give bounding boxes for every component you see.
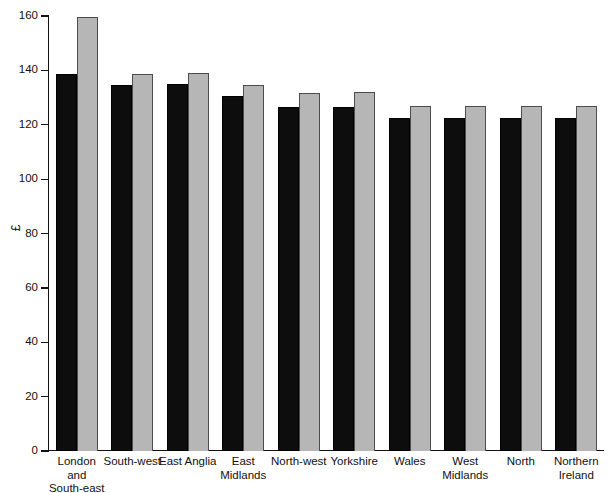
y-tick-label-wrap: 140 [0, 64, 38, 76]
bar-series-2 [410, 106, 431, 451]
y-tick-label-wrap: 20 [0, 391, 38, 403]
y-tick-label: 20 [4, 391, 38, 403]
y-tick-mark [41, 450, 49, 451]
bar-series-2 [243, 85, 264, 451]
y-tick-label: 120 [4, 119, 38, 131]
bar-chart: £ 020406080100120140160 London and South… [0, 0, 611, 493]
y-tick-label-wrap: 80 [0, 228, 38, 240]
bar-series-1 [167, 84, 188, 451]
y-tick-label-wrap: 0 [0, 445, 38, 457]
bar-series-2 [465, 106, 486, 451]
y-tick-label: 40 [4, 336, 38, 348]
y-tick-mark [41, 342, 49, 343]
bar-series-2 [576, 106, 597, 451]
bar-group [167, 16, 209, 451]
y-tick-mark [41, 124, 49, 125]
y-tick-label-wrap: 100 [0, 173, 38, 185]
bar-series-1 [389, 118, 410, 451]
bar-series-2 [188, 73, 209, 451]
y-tick-mark [41, 233, 49, 234]
bar-series-1 [111, 85, 132, 451]
y-tick-mark [41, 287, 49, 288]
bar-group [56, 16, 98, 451]
y-tick-label-wrap: 40 [0, 336, 38, 348]
y-tick-label-wrap: 120 [0, 119, 38, 131]
bar-series-1 [444, 118, 465, 451]
bar-series-2 [77, 17, 98, 451]
bar-series-1 [56, 74, 77, 451]
y-tick-label-wrap: 160 [0, 10, 38, 22]
x-axis-label: Northern Ireland [543, 455, 611, 482]
y-tick-label-wrap: 60 [0, 282, 38, 294]
bar-series-1 [278, 107, 299, 451]
bar-group [111, 16, 153, 451]
bar-series-1 [555, 118, 576, 451]
y-tick-label: 0 [4, 445, 38, 457]
y-tick-label: 100 [4, 173, 38, 185]
bar-series-1 [333, 107, 354, 451]
y-tick-label: 140 [4, 64, 38, 76]
bar-group [278, 16, 320, 451]
bar-group [500, 16, 542, 451]
y-tick-mark [41, 179, 49, 180]
y-tick-label: 60 [4, 282, 38, 294]
bar-series-1 [222, 96, 243, 451]
bar-series-2 [132, 74, 153, 451]
y-tick-label: 160 [4, 10, 38, 22]
bar-group [389, 16, 431, 451]
bar-series-2 [521, 106, 542, 451]
bar-group [444, 16, 486, 451]
y-tick-label: 80 [4, 228, 38, 240]
bar-group [222, 16, 264, 451]
bar-group [333, 16, 375, 451]
bar-series-2 [354, 92, 375, 451]
plot-area [49, 16, 604, 451]
bar-group [555, 16, 597, 451]
y-tick-mark [41, 396, 49, 397]
y-tick-mark [41, 15, 49, 16]
bar-series-1 [500, 118, 521, 451]
bar-series-2 [299, 93, 320, 451]
y-tick-mark [41, 70, 49, 71]
